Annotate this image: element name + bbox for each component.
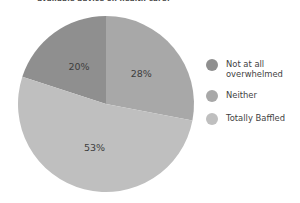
pie-label-not-at-all-overwhelmed: 20% — [69, 61, 90, 72]
chart-title: available advice on health care? — [0, 0, 208, 3]
pie-chart: 20% 28% 53% — [18, 16, 194, 192]
legend-item-not-at-all-overwhelmed[interactable]: Not at all overwhelmed — [206, 59, 300, 79]
pie-slices — [18, 16, 194, 192]
legend-label-not-at-all-overwhelmed: Not at all overwhelmed — [226, 59, 283, 79]
legend-item-totally-baffled[interactable]: Totally Baffled — [206, 113, 300, 125]
legend-swatch-circle-icon — [206, 113, 218, 125]
legend-label-totally-baffled: Totally Baffled — [226, 113, 285, 123]
pie-label-totally-baffled: 53% — [84, 142, 105, 153]
legend-label-neither: Neither — [226, 90, 257, 100]
chart-legend: Not at all overwhelmed Neither Totally B… — [206, 59, 300, 136]
pie-label-neither: 28% — [131, 68, 152, 79]
legend-item-neither[interactable]: Neither — [206, 90, 300, 102]
legend-swatch-circle-icon — [206, 59, 218, 71]
pie-chart-svg: 20% 28% 53% — [18, 16, 194, 192]
legend-swatch-circle-icon — [206, 90, 218, 102]
